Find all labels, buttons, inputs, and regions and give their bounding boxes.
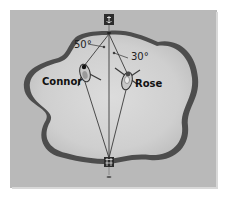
dock-icon [104, 157, 114, 167]
rose-angle-label: 30° [131, 51, 149, 62]
rose-label: Rose [135, 78, 163, 89]
connor-label: Connor [42, 76, 82, 87]
lake-diagram: 50° 30° Connor Rose [0, 0, 228, 199]
connor-angle-label: 50° [74, 39, 92, 50]
